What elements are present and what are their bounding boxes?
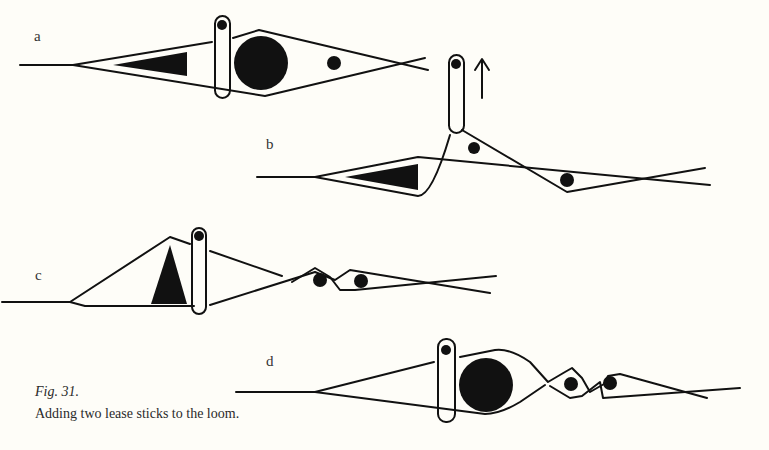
round-stick-icon xyxy=(234,36,288,90)
panel-a xyxy=(20,16,428,98)
panel-b xyxy=(257,55,710,196)
round-stick-icon-d xyxy=(459,358,513,412)
arrow-up-icon xyxy=(475,59,489,98)
panel-d xyxy=(236,339,740,422)
panel-c xyxy=(2,228,496,314)
figure-caption: Fig. 31. Adding two lease sticks to the … xyxy=(35,381,239,425)
cross-rod-icon xyxy=(327,56,341,70)
caption-text: Adding two lease sticks to the loom. xyxy=(35,406,239,421)
figure-number: Fig. 31. xyxy=(35,381,239,403)
